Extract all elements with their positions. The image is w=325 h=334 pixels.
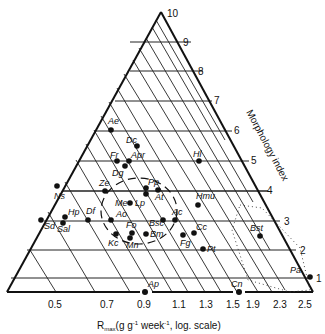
- svg-text:10: 10: [167, 8, 179, 19]
- label-ns: Ns: [54, 191, 65, 201]
- svg-text:3: 3: [284, 216, 290, 227]
- svg-text:2.5: 2.5: [298, 299, 312, 310]
- label-fr: Fr: [110, 150, 119, 160]
- label-cn: Cn: [231, 279, 243, 289]
- label-ze: Ze: [98, 178, 110, 188]
- label-me: Me: [115, 198, 128, 208]
- label-ac: Ac: [171, 207, 183, 217]
- label-at: At: [154, 192, 164, 202]
- label-sd: Sd: [44, 221, 56, 231]
- svg-text:1.3: 1.3: [199, 299, 213, 310]
- svg-text:6: 6: [234, 125, 240, 136]
- label-cc: Cc: [196, 222, 207, 232]
- label-pt: Pt: [207, 244, 216, 254]
- dashed-cluster-circle: [101, 178, 177, 244]
- label-hl: Hl: [193, 149, 202, 159]
- label-bst: Bst: [250, 223, 264, 233]
- label-df: Df: [86, 206, 96, 216]
- svg-text:8: 8: [198, 66, 204, 77]
- morphology-gridlines: [11, 42, 310, 278]
- label-hmu: Hmu: [196, 191, 215, 201]
- label-apr: Apr: [130, 150, 146, 160]
- label-ao: Ao: [115, 209, 127, 219]
- label-dc: Dc: [126, 135, 137, 145]
- triangular-diagram: Ae Dc Fr Apr Dg Ze Pp At Lp Me Ns Hp Sal…: [0, 0, 325, 334]
- svg-text:1.9: 1.9: [246, 299, 260, 310]
- label-ap: Ap: [147, 279, 159, 289]
- label-kc: Kc: [108, 238, 119, 248]
- label-fg: Fg: [180, 238, 191, 248]
- label-lp: Lp: [135, 198, 145, 208]
- svg-text:2.3: 2.3: [273, 299, 287, 310]
- svg-text:1.1: 1.1: [172, 299, 186, 310]
- label-hp: Hp: [68, 207, 80, 217]
- label-mn: Mn: [126, 240, 139, 250]
- label-bsc: Bsc: [149, 218, 165, 228]
- svg-text:0.7: 0.7: [100, 299, 114, 310]
- dotted-region: [232, 205, 310, 292]
- label-dg: Dg: [112, 168, 124, 178]
- svg-text:4: 4: [267, 185, 273, 196]
- svg-text:0.9: 0.9: [137, 299, 151, 310]
- label-sal: Sal: [57, 224, 71, 234]
- rmax-tick-labels: 0.5 0.7 0.9 1.1 1.3 1.5 1.9 2.3 2.5: [48, 299, 312, 310]
- svg-text:1.5: 1.5: [226, 299, 240, 310]
- label-fo: Fo: [126, 220, 137, 230]
- svg-text:9: 9: [183, 37, 189, 48]
- svg-text:1: 1: [316, 273, 322, 284]
- morphology-index-label: Morphology index: [244, 108, 291, 183]
- svg-text:5: 5: [251, 155, 257, 166]
- svg-text:7: 7: [214, 95, 220, 106]
- label-ae: Ae: [107, 116, 119, 126]
- rmax-axis-label: Rmax(g g-1 week-1, log. scale): [97, 320, 221, 332]
- label-pp: Pp: [148, 177, 159, 187]
- rmax-gridlines: [30, 20, 285, 292]
- svg-text:0.5: 0.5: [48, 299, 62, 310]
- label-pa: Pa: [290, 265, 301, 275]
- svg-text:2: 2: [300, 245, 306, 256]
- diagram-canvas: Ae Dc Fr Apr Dg Ze Pp At Lp Me Ns Hp Sal…: [0, 0, 325, 334]
- label-bm: Bm: [150, 229, 164, 239]
